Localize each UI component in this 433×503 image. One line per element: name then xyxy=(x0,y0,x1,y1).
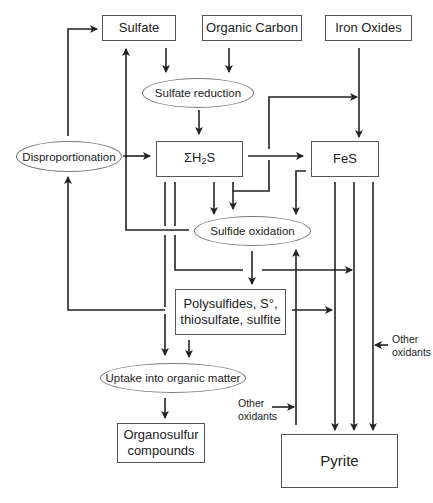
connector-layer xyxy=(0,0,433,503)
organic-carbon-box: Organic Carbon xyxy=(202,15,302,41)
fes-label: FeS xyxy=(333,151,357,167)
pyrite-box: Pyrite xyxy=(281,434,398,488)
organic-carbon-label: Organic Carbon xyxy=(206,20,298,36)
intermediates-line2: thiosulfate, sulfite xyxy=(180,312,280,328)
h2s-label: ΣH2S xyxy=(184,150,215,169)
disproportionation-ellipse: Disproportionation xyxy=(16,141,122,172)
sulfide-oxidation-label: Sulfide oxidation xyxy=(210,223,294,239)
sulfate-box: Sulfate xyxy=(102,15,176,41)
disproportionation-label: Disproportionation xyxy=(22,149,115,165)
other-oxidants-left-label: Other oxidants xyxy=(238,397,277,423)
sulfate-label: Sulfate xyxy=(119,20,159,36)
iron-oxides-label: Iron Oxides xyxy=(335,20,401,36)
other-oxidants-right-label: Other oxidants xyxy=(392,333,431,359)
h2s-box: ΣH2S xyxy=(156,141,243,177)
iron-oxides-box: Iron Oxides xyxy=(325,15,412,41)
arrow-disproportionation-to-sulfate xyxy=(68,29,97,136)
sulfide-oxidation-ellipse: Sulfide oxidation xyxy=(194,216,311,246)
pyrite-label: Pyrite xyxy=(320,453,358,469)
uptake-label: Uptake into organic matter xyxy=(106,370,241,386)
sulfate-reduction-label: Sulfate reduction xyxy=(155,85,241,101)
organosulfur-box: Organosulfur compounds xyxy=(117,423,205,463)
uptake-ellipse: Uptake into organic matter xyxy=(100,363,246,393)
intermediates-box: Polysulfides, S°, thiosulfate, sulfite xyxy=(175,289,286,335)
organosulfur-line2: compounds xyxy=(127,443,194,459)
intermediates-line1: Polysulfides, S°, xyxy=(183,296,277,312)
sulfate-reduction-ellipse: Sulfate reduction xyxy=(142,78,254,108)
fes-box: FeS xyxy=(311,141,379,177)
organosulfur-line1: Organosulfur xyxy=(123,427,198,443)
